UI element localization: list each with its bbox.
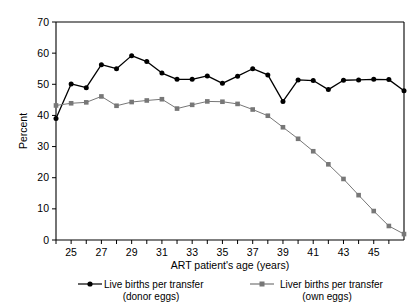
- x-tick-label: 45: [368, 246, 380, 258]
- y-tick-label: 50: [37, 78, 49, 90]
- y-axis-title: Percent: [17, 113, 29, 149]
- data-point-marker: [220, 81, 225, 86]
- y-tick-label: 70: [37, 16, 49, 28]
- y-tick-label: 20: [37, 171, 49, 183]
- data-point-marker: [99, 94, 104, 99]
- series-line: [56, 96, 404, 234]
- data-point-marker: [144, 59, 149, 64]
- data-point-marker: [235, 74, 240, 79]
- series-own-eggs: [54, 94, 407, 236]
- x-tick-label: 35: [217, 246, 229, 258]
- x-axis-title-text: ART patient's age (years): [171, 259, 289, 271]
- data-point-marker: [175, 106, 180, 111]
- data-point-marker: [402, 88, 407, 93]
- data-point-marker: [84, 85, 89, 90]
- data-point-marker: [265, 72, 270, 77]
- data-point-marker: [190, 77, 195, 82]
- plot-frame: [56, 22, 404, 240]
- data-point-marker: [99, 62, 104, 67]
- data-point-marker: [84, 100, 89, 105]
- x-tick-label: 39: [277, 246, 289, 258]
- data-point-marker: [114, 103, 119, 108]
- circle-marker-icon: [87, 281, 92, 286]
- data-point-marker: [356, 193, 361, 198]
- y-tick-label: 0: [43, 234, 49, 246]
- x-tick-label: 27: [96, 246, 108, 258]
- data-point-marker: [326, 162, 331, 167]
- data-point-marker: [356, 77, 361, 82]
- data-point-marker: [266, 113, 271, 118]
- x-axis-ticks: 2527293133353739414345: [56, 240, 389, 258]
- legend-label-own-line2: (own eggs): [302, 291, 351, 302]
- square-marker-icon: [260, 282, 265, 287]
- x-tick-label: 31: [156, 246, 168, 258]
- x-tick-label: 37: [247, 246, 259, 258]
- x-tick-label: 29: [126, 246, 138, 258]
- data-point-marker: [220, 99, 225, 104]
- y-tick-label: 40: [37, 109, 49, 121]
- data-point-marker: [129, 53, 134, 58]
- legend-entry-donor-eggs: Live births per transfer (donor eggs): [78, 279, 204, 302]
- y-axis-title-text: Percent: [17, 113, 29, 149]
- x-tick-label: 25: [65, 246, 77, 258]
- chart-legend: Live births per transfer (donor eggs) Li…: [78, 279, 383, 302]
- y-tick-label: 30: [37, 140, 49, 152]
- series-donor-eggs: [54, 53, 407, 121]
- data-point-marker: [280, 99, 285, 104]
- data-point-marker: [281, 125, 286, 130]
- y-axis-ticks: 010203040506070: [37, 16, 56, 246]
- line-chart-svg: Percent 010203040506070 2527293133353739…: [0, 0, 415, 304]
- data-point-marker: [205, 99, 210, 104]
- chart-figure: Percent 010203040506070 2527293133353739…: [0, 0, 415, 304]
- data-point-marker: [69, 81, 74, 86]
- data-point-marker: [160, 97, 165, 102]
- data-point-marker: [235, 102, 240, 107]
- data-point-marker: [69, 101, 74, 106]
- data-point-marker: [54, 116, 59, 121]
- data-point-marker: [114, 66, 119, 71]
- legend-label-donor-line1: Live births per transfer: [104, 279, 204, 290]
- data-point-marker: [371, 209, 376, 214]
- data-point-marker: [296, 77, 301, 82]
- data-point-marker: [144, 98, 149, 103]
- data-point-marker: [54, 103, 59, 108]
- y-tick-label: 60: [37, 47, 49, 59]
- data-point-marker: [311, 78, 316, 83]
- data-point-marker: [205, 73, 210, 78]
- legend-label-own-line1: Liver births per transfer: [280, 279, 383, 290]
- data-point-marker: [386, 77, 391, 82]
- series-line: [56, 56, 404, 119]
- data-point-marker: [402, 232, 407, 237]
- data-point-marker: [175, 77, 180, 82]
- x-tick-label: 41: [307, 246, 319, 258]
- data-point-marker: [250, 107, 255, 112]
- data-point-marker: [341, 78, 346, 83]
- x-tick-label: 43: [338, 246, 350, 258]
- data-point-marker: [250, 66, 255, 71]
- legend-entry-own-eggs: Liver births per transfer (own eggs): [250, 279, 383, 302]
- data-point-marker: [326, 87, 331, 92]
- data-point-marker: [190, 103, 195, 108]
- y-tick-label: 10: [37, 202, 49, 214]
- data-point-marker: [129, 100, 134, 105]
- data-point-marker: [311, 149, 316, 154]
- data-point-marker: [341, 177, 346, 182]
- data-point-marker: [371, 77, 376, 82]
- data-point-marker: [387, 224, 392, 229]
- data-series-layer: [54, 53, 407, 236]
- data-point-marker: [296, 136, 301, 141]
- x-tick-label: 33: [186, 246, 198, 258]
- data-point-marker: [159, 71, 164, 76]
- legend-label-donor-line2: (donor eggs): [123, 291, 180, 302]
